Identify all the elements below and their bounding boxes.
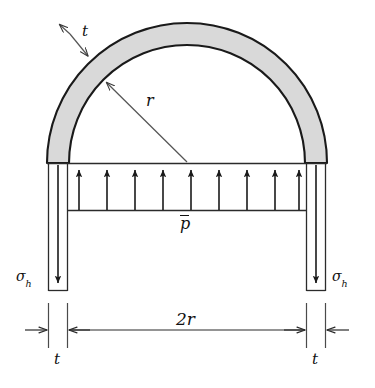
right-wall-leg bbox=[307, 163, 326, 291]
sigma-h-right-label: σh bbox=[332, 269, 348, 286]
thickness-top-label: t bbox=[82, 24, 88, 39]
span-dimension-label: 2r bbox=[176, 311, 195, 328]
sigma-h-left-label: σh bbox=[16, 269, 32, 286]
left-wall-leg bbox=[49, 163, 68, 291]
radius-label: r bbox=[146, 93, 154, 109]
arch-body bbox=[47, 23, 327, 163]
thickness-left-dim-label: t bbox=[54, 352, 60, 367]
sigma-right-subscript: h bbox=[342, 278, 348, 289]
sigma-left-glyph: σ bbox=[16, 268, 26, 284]
diagram-canvas bbox=[0, 0, 375, 388]
pressure-arrows bbox=[79, 170, 299, 210]
pressure-distribution bbox=[67, 170, 307, 211]
sigma-left-subscript: h bbox=[26, 278, 32, 289]
thickness-right-dim-label: t bbox=[312, 352, 318, 367]
sigma-right-glyph: σ bbox=[332, 268, 342, 284]
thickness-leader-upper bbox=[60, 25, 71, 35]
arch-diagram-figure: t r p 2r σh σh t t bbox=[0, 0, 375, 388]
pressure-label: p bbox=[180, 215, 190, 232]
pressure-overbar-glyph: p bbox=[180, 215, 190, 232]
arch-shell bbox=[47, 23, 327, 163]
